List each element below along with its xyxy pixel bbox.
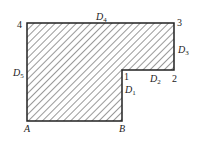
edge-label-d4: D4 bbox=[95, 11, 107, 24]
edge-label-d3: D3 bbox=[177, 44, 189, 57]
hatched-region-diagram: 4 3 1 2 A B D4 D3 D5 D2 D1 bbox=[0, 0, 199, 141]
corner-label-b: B bbox=[119, 123, 125, 134]
corner-label-3: 3 bbox=[177, 17, 182, 28]
edge-label-d5: D5 bbox=[12, 67, 24, 80]
edge-label-d2: D2 bbox=[149, 73, 161, 86]
corner-label-a: A bbox=[23, 123, 31, 134]
corner-label-2: 2 bbox=[172, 73, 177, 84]
corner-label-4: 4 bbox=[17, 19, 22, 30]
hatched-region bbox=[27, 23, 174, 121]
corner-label-1: 1 bbox=[124, 71, 129, 82]
edge-label-d1: D1 bbox=[124, 84, 136, 97]
